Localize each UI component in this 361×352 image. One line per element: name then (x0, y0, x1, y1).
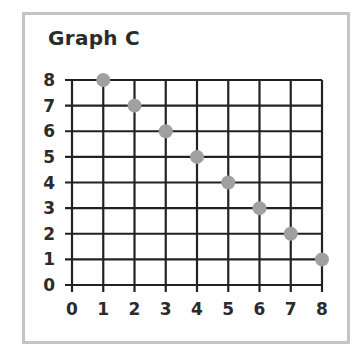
x-tick-label: 3 (160, 299, 172, 319)
data-point (190, 150, 204, 164)
data-point (315, 252, 329, 266)
y-tick-label: 2 (43, 224, 55, 244)
y-tick-label: 4 (43, 173, 55, 193)
x-tick-label: 4 (191, 299, 203, 319)
x-tick-label: 0 (66, 299, 78, 319)
y-tick-label: 0 (43, 275, 55, 295)
data-point (284, 227, 298, 241)
y-tick-label: 6 (43, 121, 55, 141)
data-point (159, 124, 173, 138)
data-point (96, 73, 110, 87)
x-tick-label: 8 (316, 299, 328, 319)
data-point (128, 99, 142, 113)
x-tick-label: 1 (97, 299, 109, 319)
y-tick-label: 1 (43, 249, 55, 269)
y-tick-label: 8 (43, 70, 55, 90)
y-tick-label: 7 (43, 96, 55, 116)
x-tick-label: 5 (222, 299, 234, 319)
y-tick-label: 5 (43, 147, 55, 167)
data-point (253, 201, 267, 215)
y-tick-label: 3 (43, 198, 55, 218)
data-point (221, 176, 235, 190)
x-tick-label: 2 (129, 299, 141, 319)
x-tick-label: 6 (254, 299, 266, 319)
scatter-plot: 012345678012345678 (0, 0, 361, 352)
x-tick-label: 7 (285, 299, 297, 319)
